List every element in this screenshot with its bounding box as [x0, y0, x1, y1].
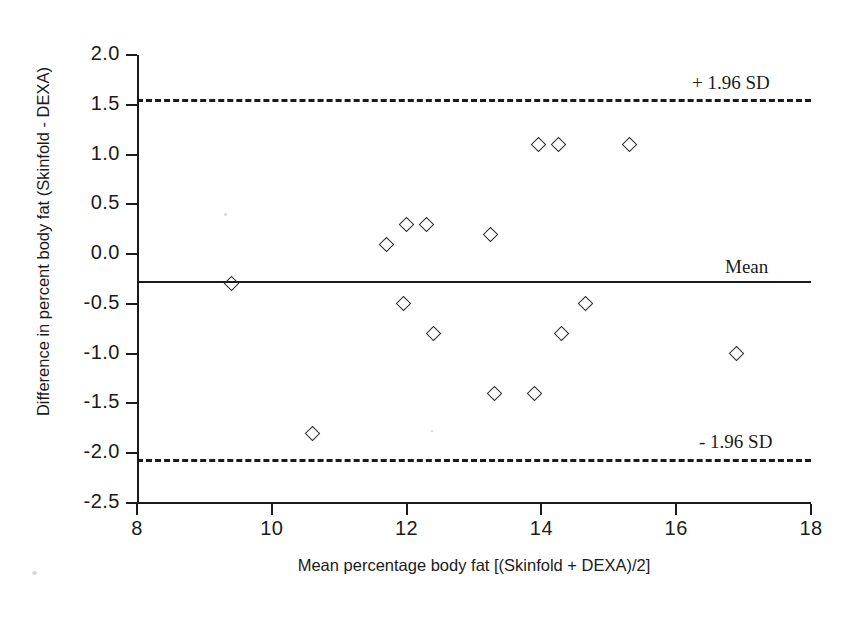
y-axis-title: Difference in percent body fat (Skinfold… — [34, 27, 53, 457]
data-point-marker — [419, 216, 435, 232]
scan-speck — [224, 213, 227, 216]
x-axis-tick-label: 16 — [646, 517, 706, 540]
y-axis-tick-label: -1.5 — [60, 390, 120, 413]
y-axis-tick — [126, 253, 137, 255]
y-axis-tick — [126, 203, 137, 205]
data-point-marker — [304, 426, 320, 442]
y-axis-tick — [126, 353, 137, 355]
y-axis-tick — [126, 303, 137, 305]
x-axis-tick-label: 14 — [511, 517, 571, 540]
data-point-marker — [426, 326, 442, 342]
y-axis-tick — [126, 154, 137, 156]
y-axis-tick-label: 2.0 — [60, 42, 120, 65]
data-point-marker — [379, 236, 395, 252]
x-axis-tick — [810, 504, 812, 515]
reference-line-label-lower-loa: - 1.96 SD — [699, 431, 772, 453]
scan-speck — [431, 430, 433, 432]
data-point-marker — [577, 296, 593, 312]
reference-line-label-mean: Mean — [725, 256, 768, 278]
data-point-marker — [395, 296, 411, 312]
y-axis-tick-label: 1.5 — [60, 92, 120, 115]
x-axis-tick — [406, 504, 408, 515]
reference-line-upper-loa — [137, 99, 811, 102]
x-axis-spine — [137, 502, 811, 504]
bland-altman-chart: + 1.96 SDMean- 1.96 SD 2.01.51.00.50.0-0… — [0, 0, 853, 626]
y-axis-spine — [137, 55, 139, 504]
y-axis-tick — [126, 54, 137, 56]
x-axis-tick-label: 12 — [377, 517, 437, 540]
data-point-marker — [550, 137, 566, 153]
y-axis-tick-label: 0.5 — [60, 191, 120, 214]
scan-speck — [32, 571, 37, 575]
data-point-marker — [527, 386, 543, 402]
data-point-marker — [729, 346, 745, 362]
x-axis-tick-label: 10 — [242, 517, 302, 540]
reference-line-lower-loa — [137, 459, 811, 462]
x-axis-title: Mean percentage body fat [(Skinfold + DE… — [137, 556, 811, 575]
data-point-marker — [621, 137, 637, 153]
y-axis-tick-label: -1.0 — [60, 341, 120, 364]
x-axis-tick — [271, 504, 273, 515]
data-point-marker — [486, 386, 502, 402]
reference-line-label-upper-loa: + 1.96 SD — [692, 72, 770, 94]
x-axis-tick-label: 18 — [781, 517, 841, 540]
data-point-marker — [483, 226, 499, 242]
y-axis-tick-label: 0.0 — [60, 241, 120, 264]
y-axis-tick — [126, 402, 137, 404]
data-point-marker — [554, 326, 570, 342]
y-axis-tick-label: -2.0 — [60, 440, 120, 463]
data-point-marker — [530, 137, 546, 153]
y-axis-tick-label: 1.0 — [60, 142, 120, 165]
x-axis-tick-label: 8 — [107, 517, 167, 540]
x-axis-tick — [675, 504, 677, 515]
data-point-marker — [399, 216, 415, 232]
y-axis-tick-label: -0.5 — [60, 291, 120, 314]
data-point-marker — [224, 276, 240, 292]
x-axis-tick — [136, 504, 138, 515]
x-axis-tick — [540, 504, 542, 515]
y-axis-tick — [126, 452, 137, 454]
y-axis-tick-label: -2.5 — [60, 490, 120, 513]
y-axis-tick — [126, 104, 137, 106]
